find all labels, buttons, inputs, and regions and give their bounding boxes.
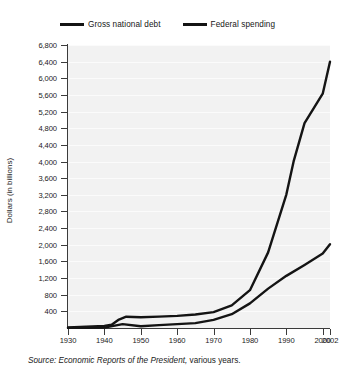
x-axis-tick-label: 1940 [96, 336, 113, 345]
figure-root: Gross national debt Federal spending 400… [0, 0, 346, 378]
x-axis-tick-label: 1990 [278, 336, 295, 345]
source-note-prefix: Source: Economic Reports of the Presiden… [28, 356, 187, 365]
line-swatch-icon [60, 23, 84, 26]
chart-legend: Gross national debt Federal spending [60, 16, 340, 32]
legend-entry-gross-national-debt: Gross national debt [60, 20, 161, 29]
line-swatch-icon [183, 23, 207, 26]
series-layer [0, 36, 346, 336]
x-axis-tick-label: 1980 [242, 336, 259, 345]
plot-wrapper: 4008001,2001,6002,0002,4002,8003,2003,60… [0, 36, 346, 336]
source-note-suffix: various years. [187, 356, 240, 365]
legend-label-federal-spending: Federal spending [211, 20, 276, 29]
legend-entry-federal-spending: Federal spending [183, 20, 276, 29]
source-note: Source: Economic Reports of the Presiden… [28, 356, 241, 365]
legend-label-gross-national-debt: Gross national debt [88, 20, 161, 29]
x-axis-tick-label: 1930 [60, 336, 77, 345]
series-line-gross-national-debt [68, 62, 330, 328]
x-axis-tick-label: 1970 [205, 336, 222, 345]
x-axis-tick-label: 1950 [132, 336, 149, 345]
series-line-federal-spending [68, 244, 330, 328]
x-axis-tick-label: 1960 [169, 336, 186, 345]
x-axis-tick-label: 2002 [322, 336, 339, 345]
